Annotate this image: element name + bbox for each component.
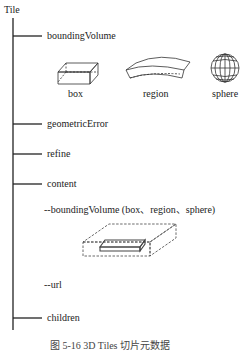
content-volume-icon — [83, 224, 176, 256]
sphere-label: sphere — [212, 88, 238, 100]
content-bounding-volume-label: --boundingVolume (box、region、sphere) — [44, 204, 215, 216]
content-url-label: --url — [44, 279, 62, 291]
sphere-icon — [211, 54, 239, 82]
box-label: box — [68, 88, 83, 100]
figure-caption: 图 5-16 3D Tiles 切片元数据 — [50, 340, 170, 352]
region-label: region — [143, 88, 169, 100]
root-label: Tile — [4, 4, 20, 16]
region-icon — [126, 57, 190, 78]
box-icon — [58, 63, 98, 84]
branch-refine: refine — [47, 148, 70, 160]
branch-children: children — [47, 312, 80, 324]
branch-geometric-error: geometricError — [47, 118, 108, 130]
branch-content: content — [47, 178, 76, 190]
tree-lines — [0, 0, 249, 355]
branch-bounding-volume: boundingVolume — [47, 30, 116, 42]
